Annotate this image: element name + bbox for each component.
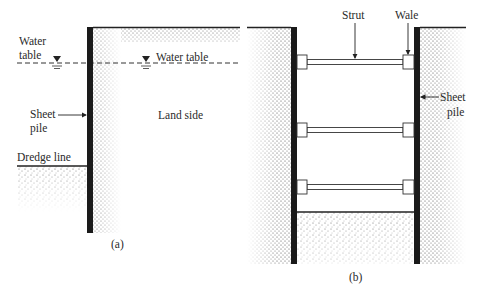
sheet-pile-label-a: pile [30,122,47,135]
water-table-icon [141,56,151,69]
sheet-pile-label-b: Sheet [440,91,466,103]
dredge-line-label: Dredge line [17,151,71,164]
strut-level-1 [297,55,414,69]
strut-level-2 [297,123,414,137]
wale-left [297,123,307,137]
sheet-pile-diagram: Water table Water table Sheet pile Land … [0,0,479,292]
sheet-pile-label-a: Sheet [30,108,56,120]
strut-level-3 [297,180,414,194]
figure-b: Strut Wale Sheet pile (b) [247,9,466,284]
wale-right [403,180,414,194]
right-soil [420,28,466,264]
wale-right [403,55,414,69]
left-soil [247,28,291,264]
sheet-pile-left [291,27,297,264]
sheet-pile-right [414,27,420,264]
figure-b-caption: (b) [349,271,363,284]
sheet-pile-a [87,27,93,233]
wale-right [403,123,414,137]
water-table-icon [52,56,62,69]
water-table-label-right: Water table [156,51,208,63]
water-table-label-left: table [19,49,41,61]
sheet-pile-label-b: pile [447,106,464,119]
wale-label: Wale [395,9,418,21]
figure-a: Water table Water table Sheet pile Land … [17,27,240,251]
figure-a-caption: (a) [111,238,124,251]
dredge-side-soil [17,166,87,212]
wale-left [297,180,307,194]
wale-left [297,55,307,69]
excavation-bottom-soil [297,212,414,264]
water-table-label-left: Water [19,35,46,47]
land-side-label: Land side [158,109,203,121]
strut-label: Strut [342,9,365,21]
